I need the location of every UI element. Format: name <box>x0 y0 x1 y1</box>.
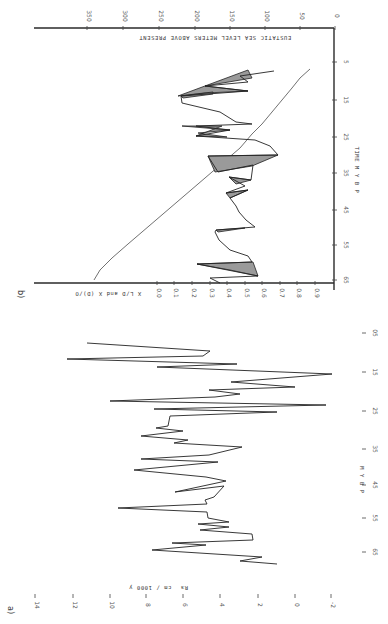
rs-tick-label: 2 <box>257 603 264 607</box>
time-tick-b-label: 15 <box>343 96 350 104</box>
time-tick-b-label: 5 <box>343 60 350 64</box>
sea-level-tick-label: 0 <box>334 14 341 18</box>
dl-tick-label: 0.4 <box>226 288 233 298</box>
figure-canvas: b) EUSTATIC SEA LEVEL METERS ABOVE PRESE… <box>0 0 388 624</box>
time-tick-b-label: 25 <box>343 133 350 141</box>
time-tick-a-label: 35 <box>372 445 379 453</box>
time-tick-a-label: 15 <box>372 368 379 376</box>
time-tick-b-label: 65 <box>343 276 350 284</box>
time-tick-b-label: 45 <box>343 206 350 214</box>
time-axis-a-title: M Y B P <box>359 466 365 493</box>
time-tick-b-label: 55 <box>343 241 350 249</box>
dl-tick-label: 0.3 <box>209 288 216 298</box>
panel-a: a) cm / 1000 y Rs M Y B P 14121086420-2 … <box>6 329 379 614</box>
sea-level-axis-title: EUSTATIC SEA LEVEL METERS ABOVE PRESENT <box>139 35 292 41</box>
time-ticks-b: 5152535455565 <box>332 60 350 284</box>
dl-tick-label: 0.1 <box>173 288 180 298</box>
dl-tick-label: 0.9 <box>314 288 321 298</box>
sea-level-curve <box>94 69 310 280</box>
dl-axis-title: X L/D and X (D)/O <box>75 291 142 297</box>
dl-tick-label: 0.5 <box>244 288 251 298</box>
dl-tick-label: 0.8 <box>296 288 303 298</box>
dl-envelope-3 <box>208 155 278 172</box>
rs-units-label: cm / 1000 y <box>128 584 171 591</box>
time-tick-b-label: 35 <box>343 169 350 177</box>
panel-b-label: b) <box>16 290 25 298</box>
panel-b: b) EUSTATIC SEA LEVEL METERS ABOVE PRESE… <box>16 10 360 298</box>
rs-tick-label: 0 <box>294 603 301 607</box>
rs-tick-label: 4 <box>219 603 226 607</box>
rs-tick-label: -2 <box>330 602 337 608</box>
time-tick-a-label: 65 <box>372 548 379 556</box>
sea-level-tick-label: 200 <box>194 10 201 22</box>
time-axis-b-title: TIME M Y B P <box>354 147 360 194</box>
dl-tick-label: 0.7 <box>279 288 286 298</box>
rs-ticks: 14121086420-2 <box>34 594 337 609</box>
sea-level-tick-label: 350 <box>86 10 93 22</box>
dl-tick-label: 0.0 <box>156 288 163 298</box>
dl-tick-label: 0.2 <box>191 288 198 298</box>
rs-sawtooth-curve <box>67 343 332 564</box>
sea-level-ticks: 350300250200150100500 <box>86 10 341 30</box>
time-tick-a-label: 45 <box>372 481 379 489</box>
sea-level-tick-label: 250 <box>158 10 165 22</box>
rs-tick-label: 14 <box>34 601 41 609</box>
sea-level-tick-label: 50 <box>299 12 306 20</box>
time-tick-a-label: 25 <box>372 407 379 415</box>
rs-tick-label: 12 <box>72 601 79 609</box>
rs-tick-label: 10 <box>109 601 116 609</box>
sea-level-tick-label: 300 <box>122 10 129 22</box>
sea-level-tick-label: 100 <box>264 10 271 22</box>
rs-tick-label: 8 <box>145 603 152 607</box>
dl-curve <box>181 71 278 283</box>
rs-tick-label: 6 <box>182 603 189 607</box>
time-tick-a-label: 55 <box>372 514 379 522</box>
time-ticks-a: 05152535455565 <box>362 329 379 556</box>
panel-a-label: a) <box>6 606 15 614</box>
rs-symbol-label: Rs <box>180 585 188 591</box>
time-tick-a-label: 05 <box>372 329 379 337</box>
dl-tick-label: 0.6 <box>261 288 268 298</box>
sea-level-tick-label: 150 <box>229 10 236 22</box>
